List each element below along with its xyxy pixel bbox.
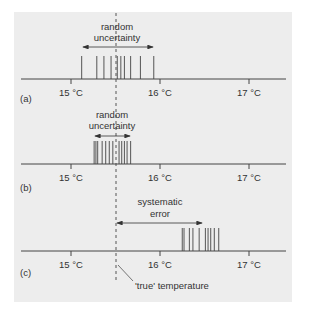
axis-label-16: 16 °C <box>148 259 172 270</box>
axis-label-16: 16 °C <box>148 172 172 183</box>
axis-label-16: 16 °C <box>148 87 172 98</box>
panel-a-annotation-line1: random <box>101 21 133 32</box>
panel-a-annotation-line2: uncertainty <box>94 32 141 43</box>
axis-label-17: 17 °C <box>237 259 261 270</box>
panel-c-annotation-line2: error <box>150 208 170 219</box>
panel-c-readings <box>182 228 218 251</box>
panel-c: systematic error 15 °C 16 °C 17 °C (c) <box>20 196 286 278</box>
axis-label-15: 15 °C <box>59 87 83 98</box>
panel-b-annotation-line1: random <box>96 109 128 120</box>
panel-a: random uncertainty 15 °C 16 °C 17 °C (a) <box>20 21 286 104</box>
panel-c-label: (c) <box>20 267 31 278</box>
axis-label-17: 17 °C <box>237 87 261 98</box>
true-temperature-label: 'true' temperature <box>135 280 209 291</box>
axis-label-17: 17 °C <box>237 172 261 183</box>
axis-label-15: 15 °C <box>59 259 83 270</box>
panel-c-annotation-line1: systematic <box>138 196 183 207</box>
true-temperature-pointer <box>118 265 133 281</box>
panel-a-label: (a) <box>20 93 32 104</box>
panel-b: random uncertainty 15 °C 16 °C 17 °C (b) <box>20 109 286 193</box>
measurement-diagram: 'true' temperature random uncertainty 15… <box>0 0 309 315</box>
panel-b-label: (b) <box>20 182 32 193</box>
axis-label-15: 15 °C <box>59 172 83 183</box>
panel-b-readings <box>94 141 130 164</box>
panel-b-annotation-line2: uncertainty <box>89 120 136 131</box>
panel-a-readings <box>82 56 154 79</box>
